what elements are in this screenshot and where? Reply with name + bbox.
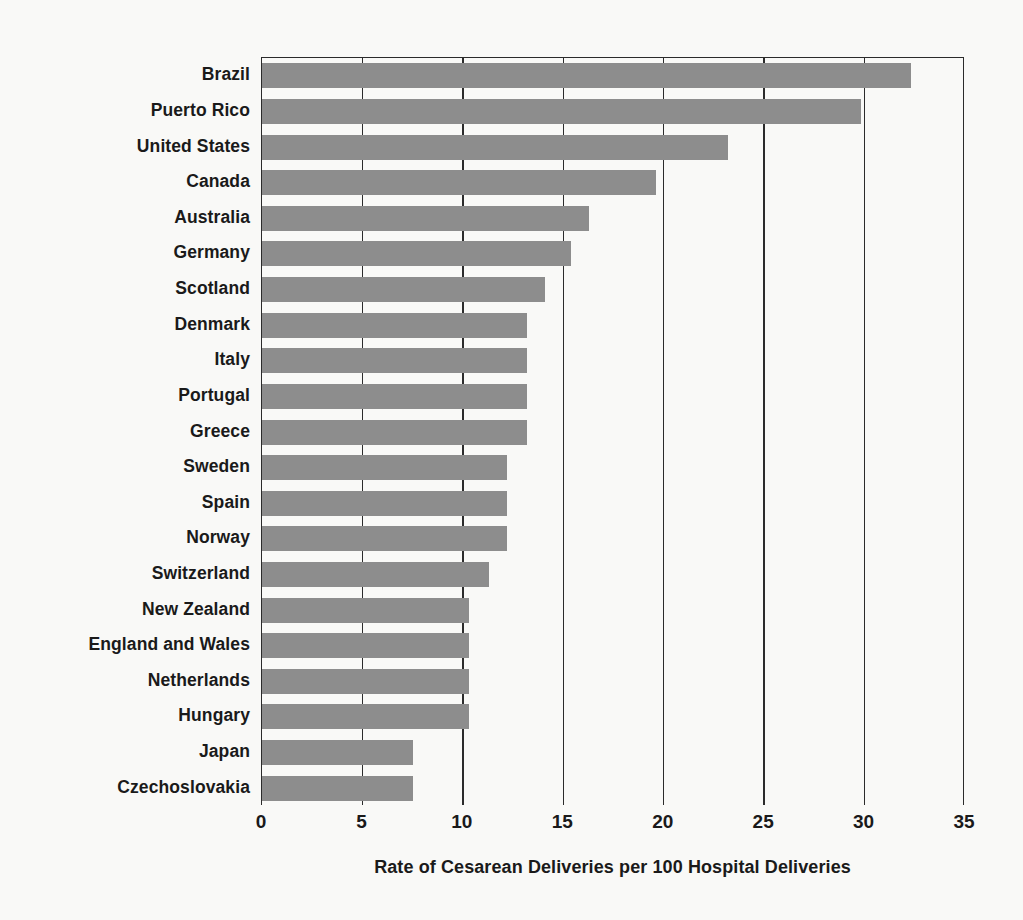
- x-axis-title: Rate of Cesarean Deliveries per 100 Hosp…: [261, 857, 964, 878]
- bar-norway: [262, 526, 507, 551]
- tick-label-5: 5: [356, 811, 367, 833]
- category-label-czechoslovakia: Czechoslovakia: [0, 775, 250, 800]
- category-label-norway: Norway: [0, 525, 250, 550]
- category-label-switzerland: Switzerland: [0, 561, 250, 586]
- bar-row: [262, 740, 965, 765]
- bar-row: [262, 669, 965, 694]
- bar-row: [262, 598, 965, 623]
- cesarean-rate-bar-chart: BrazilPuerto RicoUnited StatesCanadaAust…: [0, 0, 1023, 920]
- category-label-netherlands: Netherlands: [0, 668, 250, 693]
- bar-row: [262, 776, 965, 801]
- bar-row: [262, 420, 965, 445]
- category-label-puerto-rico: Puerto Rico: [0, 98, 250, 123]
- bar-greece: [262, 420, 527, 445]
- bar-italy: [262, 348, 527, 373]
- category-label-italy: Italy: [0, 347, 250, 372]
- bar-united-states: [262, 135, 728, 160]
- category-label-germany: Germany: [0, 240, 250, 265]
- bar-spain: [262, 491, 507, 516]
- bar-row: [262, 704, 965, 729]
- tick-label-25: 25: [753, 811, 774, 833]
- category-label-australia: Australia: [0, 205, 250, 230]
- bar-australia: [262, 206, 589, 231]
- category-label-england-and-wales: England and Wales: [0, 632, 250, 657]
- category-label-brazil: Brazil: [0, 62, 250, 87]
- category-label-hungary: Hungary: [0, 703, 250, 728]
- bar-hungary: [262, 704, 469, 729]
- category-label-canada: Canada: [0, 169, 250, 194]
- bar-netherlands: [262, 669, 469, 694]
- bar-scotland: [262, 277, 545, 302]
- bar-row: [262, 313, 965, 338]
- category-axis-labels: BrazilPuerto RicoUnited StatesCanadaAust…: [0, 57, 250, 805]
- bar-sweden: [262, 455, 507, 480]
- bar-denmark: [262, 313, 527, 338]
- category-label-united-states: United States: [0, 134, 250, 159]
- bar-row: [262, 99, 965, 124]
- category-label-denmark: Denmark: [0, 312, 250, 337]
- bar-row: [262, 455, 965, 480]
- tick-label-0: 0: [256, 811, 267, 833]
- category-label-greece: Greece: [0, 419, 250, 444]
- tick-label-30: 30: [853, 811, 874, 833]
- bar-row: [262, 170, 965, 195]
- category-label-sweden: Sweden: [0, 454, 250, 479]
- plot-area: [261, 57, 964, 805]
- category-label-spain: Spain: [0, 490, 250, 515]
- category-label-scotland: Scotland: [0, 276, 250, 301]
- tick-label-15: 15: [552, 811, 573, 833]
- tick-label-20: 20: [652, 811, 673, 833]
- tick-label-35: 35: [953, 811, 974, 833]
- category-label-japan: Japan: [0, 739, 250, 764]
- tick-label-10: 10: [451, 811, 472, 833]
- bar-row: [262, 277, 965, 302]
- category-label-new-zealand: New Zealand: [0, 597, 250, 622]
- bar-row: [262, 526, 965, 551]
- bar-row: [262, 135, 965, 160]
- bar-japan: [262, 740, 413, 765]
- bar-series: [262, 58, 963, 805]
- bar-portugal: [262, 384, 527, 409]
- category-label-portugal: Portugal: [0, 383, 250, 408]
- bar-row: [262, 206, 965, 231]
- bar-row: [262, 633, 965, 658]
- bar-row: [262, 491, 965, 516]
- bar-row: [262, 384, 965, 409]
- bar-czechoslovakia: [262, 776, 413, 801]
- bar-germany: [262, 241, 571, 266]
- bar-england-and-wales: [262, 633, 469, 658]
- bar-row: [262, 562, 965, 587]
- bar-switzerland: [262, 562, 489, 587]
- bar-new-zealand: [262, 598, 469, 623]
- bar-row: [262, 348, 965, 373]
- bar-canada: [262, 170, 656, 195]
- bar-row: [262, 63, 965, 88]
- bar-row: [262, 241, 965, 266]
- bar-puerto-rico: [262, 99, 861, 124]
- bar-brazil: [262, 63, 911, 88]
